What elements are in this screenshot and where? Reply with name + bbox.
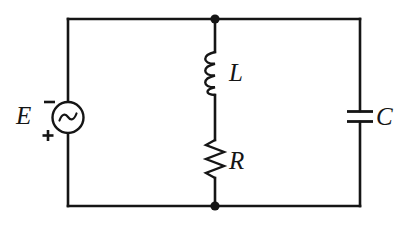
capacitor-symbol <box>347 112 373 122</box>
junction-dot-top <box>210 14 219 23</box>
source-label: E <box>16 103 31 128</box>
circuit-diagram: E L R C <box>0 0 408 226</box>
resistor-symbol <box>206 140 224 178</box>
inductor-symbol <box>205 52 215 95</box>
junction-dot-bottom <box>210 201 219 210</box>
ac-source-symbol <box>53 102 84 133</box>
circuit-schematic-svg <box>0 0 408 226</box>
resistor-label: R <box>229 148 244 173</box>
inductor-label: L <box>229 60 243 85</box>
capacitor-label: C <box>376 104 393 129</box>
